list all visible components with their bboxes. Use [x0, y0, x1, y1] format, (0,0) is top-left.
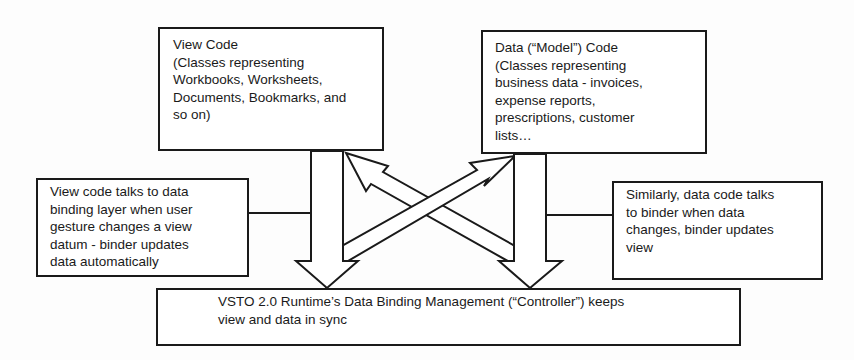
data-code-line: expense reports,	[495, 92, 697, 110]
controller-box: VSTO 2.0 Runtime’s Data Binding Manageme…	[156, 288, 741, 346]
view-code-title: View Code	[173, 36, 374, 54]
note-line: view	[626, 239, 813, 257]
view-code-line: so on)	[173, 106, 374, 124]
note-line: gesture changes a view	[50, 218, 239, 236]
arrow-data-to-controller	[499, 154, 562, 288]
note-line: binding layer when user	[50, 201, 239, 219]
note-line: changes, binder updates	[626, 221, 813, 239]
arrow-view-to-controller	[296, 151, 358, 288]
controller-line: view and data in sync	[218, 311, 731, 329]
data-code-title: Data (“Model”) Code	[495, 39, 697, 57]
note-line: View code talks to data	[50, 183, 239, 201]
view-code-line: (Classes representing	[173, 54, 374, 72]
note-line: data automatically	[50, 253, 239, 271]
data-code-line: (Classes representing	[495, 57, 697, 75]
data-code-box: Data (“Model”) Code (Classes representin…	[481, 30, 707, 154]
data-code-line: prescriptions, customer	[495, 109, 697, 127]
note-line: datum - binder updates	[50, 236, 239, 254]
view-binding-note: View code talks to data binding layer wh…	[36, 178, 249, 277]
data-code-line: business data - invoices,	[495, 74, 697, 92]
view-code-line: Documents, Bookmarks, and	[173, 89, 374, 107]
note-line: to binder when data	[626, 204, 813, 222]
note-line: Similarly, data code talks	[626, 186, 813, 204]
data-code-line: lists…	[495, 127, 697, 145]
data-binding-note: Similarly, data code talks to binder whe…	[612, 181, 823, 280]
view-code-box: View Code (Classes representing Workbook…	[158, 27, 384, 151]
view-code-line: Workbooks, Worksheets,	[173, 71, 374, 89]
controller-line: VSTO 2.0 Runtime’s Data Binding Manageme…	[218, 293, 731, 311]
